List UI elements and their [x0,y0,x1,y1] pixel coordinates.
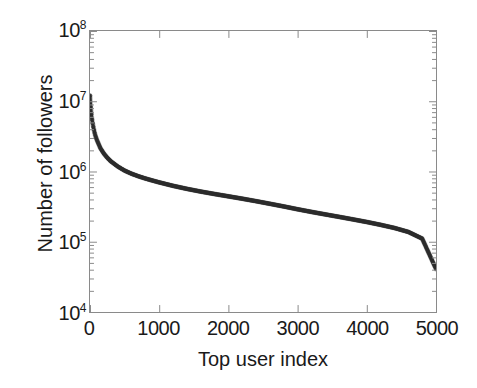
x-tick-label: 3000 [277,317,320,340]
x-tick-label: 1000 [137,317,180,340]
y-tick-exponent: 5 [80,230,86,244]
x-axis-title: Top user index [89,348,437,371]
y-tick-mantissa: 10 [59,302,80,324]
x-tick-label: 0 [84,317,95,340]
y-tick-mantissa: 10 [59,160,80,182]
y-tick-mantissa: 10 [59,231,80,253]
y-tick-label: 106 [59,160,86,183]
plot-area [89,30,437,313]
y-tick-exponent: 7 [80,89,86,103]
y-axis-title: Number of followers [34,22,57,305]
y-tick-label: 105 [59,231,86,254]
y-tick-exponent: 4 [80,301,86,315]
y-tick-mantissa: 10 [59,19,80,41]
y-tick-exponent: 6 [80,159,86,173]
y-tick-exponent: 8 [80,18,86,32]
x-tick-label: 5000 [416,317,459,340]
y-tick-label: 108 [59,19,86,42]
y-tick-label: 104 [59,302,86,325]
y-tick-label: 107 [59,89,86,112]
y-tick-mantissa: 10 [59,89,80,111]
chart-figure: 104105106107108 010002000300040005000 To… [0,0,477,388]
x-tick-label: 2000 [207,317,250,340]
data-curve [90,31,436,312]
x-tick-label: 4000 [346,317,389,340]
